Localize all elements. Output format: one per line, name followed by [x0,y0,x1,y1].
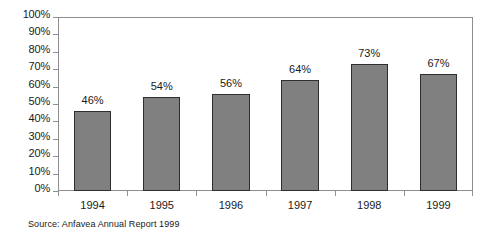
x-tick-mark [196,191,197,196]
y-tick-label: 10% [29,166,50,177]
bars-layer: 46%54%56%64%73%67% [58,17,473,191]
x-tick-label: 1999 [426,199,450,211]
bar-slot: 56% [212,17,249,191]
y-tick-label: 60% [29,79,50,90]
bar-slot: 73% [351,17,388,191]
bar-value-label: 56% [220,78,242,89]
x-tick-label: 1994 [80,199,104,211]
bar-slot: 64% [281,17,318,191]
bar[interactable] [351,64,388,191]
bar-value-label: 67% [427,58,449,69]
y-tick-label: 0% [35,183,51,194]
y-tick-label: 70% [29,61,50,72]
x-tick-label: 1998 [357,199,381,211]
y-tick-label: 100% [23,9,50,20]
y-tick-label: 20% [29,148,50,159]
y-tick-label: 40% [29,113,50,124]
x-tick-mark [127,191,128,196]
bar-chart-figure: 0%10%20%30%40%50%60%70%80%90%100% 46%54%… [0,0,497,236]
bar-value-label: 73% [358,48,380,59]
y-tick-label: 30% [29,131,50,142]
bar-slot: 54% [143,17,180,191]
x-tick-label: 1996 [219,199,243,211]
x-tick-mark [404,191,405,196]
x-tick-mark [335,191,336,196]
bar-value-label: 46% [82,95,104,106]
y-tick-label: 80% [29,44,50,55]
x-tick-mark [58,191,59,196]
bar[interactable] [143,97,180,191]
x-tick-mark [472,191,473,196]
bar[interactable] [74,111,111,191]
x-tick-label: 1995 [150,199,174,211]
bar-slot: 46% [74,17,111,191]
x-axis: 199419951996199719981999 [58,191,473,215]
x-tick-mark [266,191,267,196]
bar[interactable] [212,94,249,191]
x-tick-label: 1997 [288,199,312,211]
y-tick-label: 90% [29,26,50,37]
y-tick-label: 50% [29,96,50,107]
source-note: Source: Anfavea Annual Report 1999 [28,219,180,230]
bar-slot: 67% [420,17,457,191]
bar[interactable] [281,80,318,191]
bar-value-label: 54% [151,81,173,92]
bar[interactable] [420,74,457,191]
bar-value-label: 64% [289,64,311,75]
y-axis: 0%10%20%30%40%50%60%70%80%90%100% [0,17,58,191]
